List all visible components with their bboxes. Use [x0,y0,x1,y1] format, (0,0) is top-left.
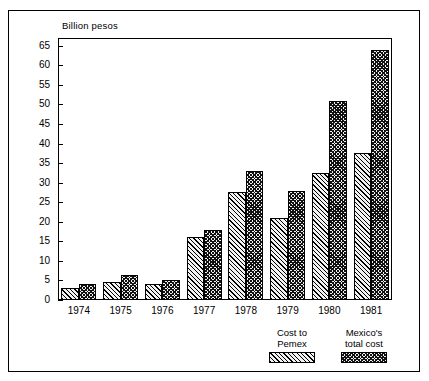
bar [121,275,139,300]
legend-item: Mexico's total cost [330,327,398,363]
legend-label: Mexico's total cost [330,327,398,349]
bar [162,280,180,300]
x-tick-label: 1977 [182,306,226,316]
bar [228,192,246,300]
bar-series-layer [0,0,429,381]
x-tick-label: 1975 [99,306,143,316]
bar [312,173,330,300]
bar [145,284,163,300]
x-tick-label: 1976 [140,306,184,316]
x-tick-label: 1978 [224,306,268,316]
bar [61,288,79,300]
x-tick-label: 1980 [307,306,351,316]
bar [288,191,306,300]
bar [246,171,264,300]
bar [270,218,288,300]
bar [204,230,222,300]
bar [103,282,121,300]
legend-label: Cost to Pemex [258,327,326,349]
bar [354,153,372,300]
x-tick-label: 1981 [349,306,393,316]
legend-swatch [341,352,387,363]
x-tick-label: 1974 [57,306,101,316]
bar [371,50,389,300]
bar [79,284,97,300]
x-tick-label: 1979 [266,306,310,316]
bar [329,101,347,300]
bar [187,237,205,300]
legend-item: Cost to Pemex [258,327,326,363]
legend-swatch [269,352,315,363]
figure-root: Billion pesos 05101520253035404550556065… [0,0,429,381]
